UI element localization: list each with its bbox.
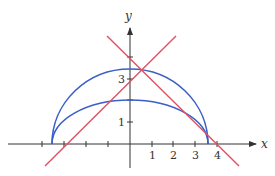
diagram-canvas: x y 1 2 3 4 1 3 — [0, 0, 275, 176]
x-tick-label-4: 4 — [214, 149, 221, 162]
y-tick-label-3: 3 — [118, 73, 125, 86]
x-tick-label-1: 1 — [149, 149, 156, 162]
y-tick-label-1: 1 — [118, 116, 125, 129]
rising-line — [45, 36, 176, 166]
x-axis-label: x — [261, 137, 268, 151]
x-tick-label-2: 2 — [170, 149, 177, 162]
x-tick-label-3: 3 — [192, 149, 199, 162]
y-axis-label: y — [124, 9, 132, 23]
